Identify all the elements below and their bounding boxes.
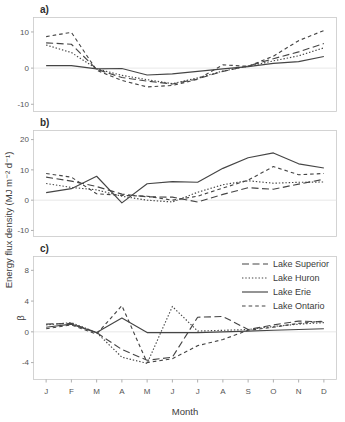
figure-container: Energy flux density (MJ m⁻² d⁻¹) a) -100… [0, 0, 345, 422]
panel-b-label: b) [40, 117, 49, 128]
panel-c-series-group [46, 306, 324, 364]
y-tick-label: 0 [25, 64, 30, 73]
series-line-lake-superior [46, 316, 324, 360]
legend-label-lake-ontario: Lake Ontario [273, 301, 325, 311]
series-line-lake-ontario [46, 31, 324, 87]
y-tick-label: 20 [20, 135, 29, 144]
panel-a-y-ticks: -10010 [17, 28, 33, 109]
panel-a-series-group [46, 31, 324, 87]
beta-axis-label: β [15, 315, 26, 321]
y-tick-label: 0 [25, 196, 30, 205]
series-line-lake-huron [46, 306, 324, 363]
y-tick-label: 8 [25, 266, 30, 275]
panel-b-frame [34, 131, 337, 237]
series-line-lake-huron [46, 181, 324, 202]
x-tick-label-j-5: J [170, 387, 174, 396]
x-tick-label-d-11: D [321, 387, 327, 396]
legend-label-lake-erie: Lake Erie [273, 287, 311, 297]
panel-b: b) -1001020 [17, 117, 336, 237]
x-tick-label-s-8: S [245, 387, 250, 396]
panel-a-label: a) [40, 4, 49, 15]
panel-b-y-ticks: -1001020 [17, 135, 33, 235]
panel-a-frame [34, 18, 337, 112]
y-tick-label: -10 [17, 226, 29, 235]
panel-c-label: c) [40, 243, 49, 254]
legend-label-lake-superior: Lake Superior [273, 259, 329, 269]
panel-b-series-group [46, 153, 324, 203]
y-tick-label: 4 [25, 297, 30, 306]
x-tick-label-a-3: A [119, 387, 125, 396]
series-line-lake-superior [46, 43, 324, 84]
x-tick-label-n-10: N [296, 387, 302, 396]
x-tick-label-j-6: J [196, 387, 200, 396]
series-line-lake-huron [46, 45, 324, 84]
y-tick-label: 10 [20, 28, 29, 37]
y-tick-label: 0 [25, 328, 30, 337]
y-axis-title: Energy flux density (MJ m⁻² d⁻¹) [3, 152, 14, 289]
x-tick-label-m-4: M [144, 387, 151, 396]
x-tick-label-a-7: A [220, 387, 226, 396]
legend: Lake SuperiorLake HuronLake ErieLake Ont… [242, 259, 329, 311]
x-tick-label-m-2: M [93, 387, 100, 396]
x-tick-label-j-0: J [44, 387, 48, 396]
legend-label-lake-huron: Lake Huron [273, 273, 320, 283]
series-line-lake-erie [46, 153, 324, 203]
series-line-lake-ontario [46, 306, 324, 363]
y-tick-label: 10 [20, 166, 29, 175]
x-axis-title: Month [172, 406, 198, 417]
panel-a: a) -10010 [17, 4, 336, 112]
multi-panel-line-chart: Energy flux density (MJ m⁻² d⁻¹) a) -100… [0, 0, 345, 422]
x-tick-label-o-9: O [270, 387, 276, 396]
x-tick-label-f-1: F [69, 387, 74, 396]
series-line-lake-erie [46, 57, 324, 75]
y-tick-label: -10 [17, 100, 29, 109]
y-tick-label: -4 [22, 358, 30, 367]
x-axis: JFMAMJJASOND [44, 380, 327, 396]
